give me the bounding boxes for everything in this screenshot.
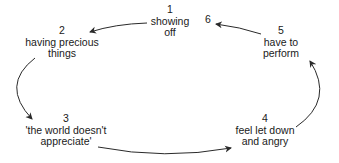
node-label-line: appreciate' xyxy=(25,136,106,148)
node-1-showing-off: 1 showing off xyxy=(151,4,190,39)
node-6: 6 xyxy=(205,14,211,26)
node-label-line: and angry xyxy=(236,136,295,148)
arrow-3-to-4 xyxy=(98,147,231,154)
node-number: 6 xyxy=(205,14,211,26)
node-label-line: things xyxy=(25,48,99,60)
node-label-line: off xyxy=(151,27,190,39)
node-5-have-to-perform: 5 have to perform xyxy=(263,25,299,60)
node-2-having-precious-things: 2 having precious things xyxy=(25,25,99,60)
node-label-line: perform xyxy=(263,48,299,60)
node-number: 1 xyxy=(151,4,190,16)
node-4-feel-let-down: 4 feel let down and angry xyxy=(236,113,295,148)
node-number: 4 xyxy=(236,113,295,125)
arrow-4-to-5 xyxy=(296,61,320,127)
arrow-5-to-6 xyxy=(216,24,261,34)
node-number: 5 xyxy=(263,25,299,37)
arrow-2-to-3 xyxy=(17,58,35,119)
node-number: 3 xyxy=(25,113,106,125)
node-number: 2 xyxy=(25,25,99,37)
node-3-world-doesnt-appreciate: 3 'the world doesn't appreciate' xyxy=(25,113,106,148)
